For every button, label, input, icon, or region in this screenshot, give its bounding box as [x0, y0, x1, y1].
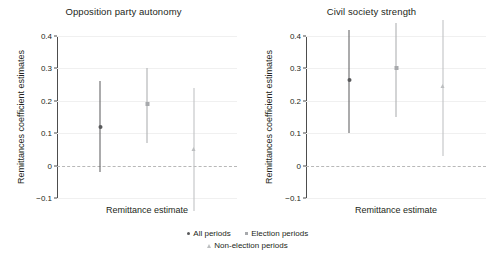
y-axis-title: Remittances coefficient estimates: [262, 36, 276, 198]
y-tick-mark: [303, 133, 306, 134]
y-axis-line: [57, 36, 58, 198]
y-tick-label: 0: [48, 161, 52, 170]
y-tick-label: 0.1: [290, 129, 301, 138]
y-axis-title-text: Remittances coefficient estimates: [264, 50, 274, 184]
y-tick-mark: [54, 100, 57, 101]
error-bar: [349, 30, 350, 134]
legend-marker-square-icon: [245, 232, 249, 236]
y-tick-label: 0.3: [290, 64, 301, 73]
legend-row: All periodsElection periods: [0, 228, 495, 240]
panel-title: Civil society strength: [248, 6, 495, 17]
estimate-point-marker: [394, 66, 398, 70]
gridline: [306, 133, 486, 134]
y-tick-mark: [54, 133, 57, 134]
y-axis-title: Remittances coefficient estimates: [14, 36, 28, 198]
panel-title: Opposition party autonomy: [0, 6, 247, 17]
zero-reference-line: [306, 166, 486, 167]
gridline: [57, 36, 237, 37]
legend-marker-circle-icon: [187, 232, 191, 236]
legend-row: Non-election periods: [0, 240, 495, 252]
y-tick-mark: [54, 68, 57, 69]
estimate-point-marker: [98, 125, 102, 129]
estimate-point-marker: [347, 78, 351, 82]
y-tick-mark: [303, 68, 306, 69]
y-axis-line: [306, 36, 307, 198]
error-bar: [147, 68, 148, 143]
panel-civil-society-strength: Civil society strength Remittances coeff…: [248, 0, 495, 225]
y-tick-label: −0.1: [36, 194, 52, 203]
estimate-point-marker: [441, 84, 445, 88]
legend-label: Election periods: [251, 229, 308, 238]
legend-item[interactable]: All periods: [187, 228, 231, 240]
gridline: [57, 198, 237, 199]
x-axis-title: Remittance estimate: [57, 205, 237, 215]
y-tick-label: 0.4: [290, 32, 301, 41]
legend-item[interactable]: Non-election periods: [207, 240, 287, 252]
legend-item[interactable]: Election periods: [245, 228, 308, 240]
y-tick-label: 0: [297, 161, 301, 170]
x-axis-title: Remittance estimate: [306, 205, 486, 215]
y-tick-label: 0.2: [41, 96, 52, 105]
legend-label: Non-election periods: [214, 241, 287, 250]
error-bar: [193, 88, 194, 211]
figure-container: Opposition party autonomy Remittances co…: [0, 0, 495, 264]
y-tick-mark: [303, 198, 306, 199]
zero-reference-line: [57, 166, 237, 167]
y-tick-label: 0.3: [41, 64, 52, 73]
y-tick-mark: [54, 36, 57, 37]
error-bar: [442, 20, 443, 156]
plot-area: 0.40.30.20.10−0.1: [57, 36, 237, 198]
error-bar: [396, 23, 397, 117]
error-bar: [100, 81, 101, 172]
estimate-point-marker: [145, 102, 149, 106]
legend-label: All periods: [193, 229, 230, 238]
y-tick-label: 0.1: [41, 129, 52, 138]
y-tick-label: −0.1: [285, 194, 301, 203]
panel-opposition-party-autonomy: Opposition party autonomy Remittances co…: [0, 0, 247, 225]
y-tick-mark: [54, 198, 57, 199]
y-tick-label: 0.4: [41, 32, 52, 41]
y-tick-mark: [303, 100, 306, 101]
y-axis-title-text: Remittances coefficient estimates: [16, 50, 26, 184]
estimate-point-marker: [192, 147, 196, 151]
legend-marker-triangle-icon: [207, 244, 211, 248]
y-tick-label: 0.2: [290, 96, 301, 105]
y-tick-mark: [303, 36, 306, 37]
plot-area: 0.40.30.20.10−0.1: [306, 36, 486, 198]
legend: All periodsElection periodsNon-election …: [0, 228, 495, 252]
gridline: [306, 198, 486, 199]
